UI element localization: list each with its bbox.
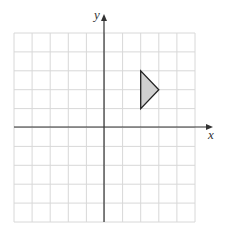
x-axis-label: x: [207, 127, 214, 142]
y-axis-label: y: [92, 7, 100, 22]
y-axis-arrow-icon: [101, 14, 107, 21]
axes: x y: [14, 7, 214, 222]
coordinate-plane: x y: [0, 0, 228, 237]
triangle-shape: [141, 71, 159, 109]
